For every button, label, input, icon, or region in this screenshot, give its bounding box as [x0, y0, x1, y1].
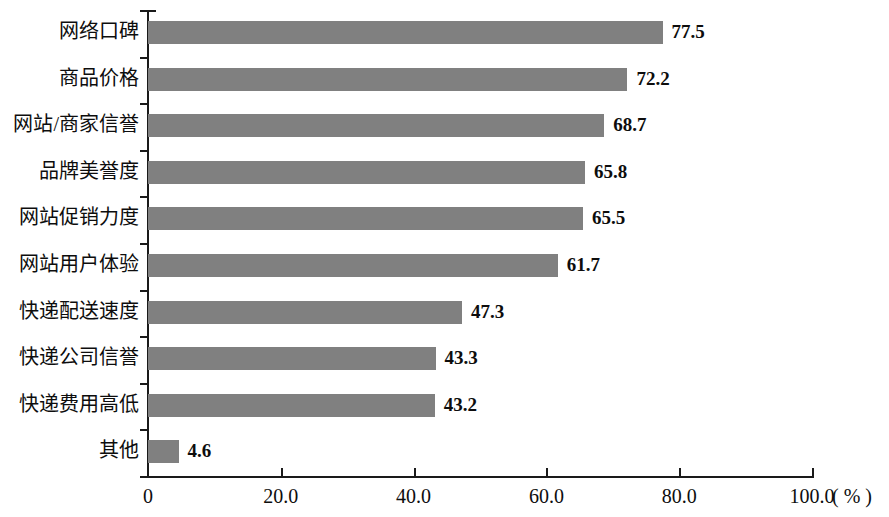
chart-row: 快递公司信誉43.3 [148, 336, 812, 383]
bar-value-label: 43.2 [444, 392, 477, 417]
category-label: 快递费用高低 [0, 391, 139, 417]
category-label: 快递公司信誉 [0, 344, 139, 370]
chart-row: 其他4.6 [148, 429, 812, 476]
bar [148, 347, 436, 370]
x-axis-tick [679, 468, 681, 477]
category-label: 商品价格 [0, 65, 139, 91]
chart-row: 网站/商家信誉68.7 [148, 103, 812, 150]
y-axis-tick [140, 196, 148, 198]
x-axis-tick-label: 0 [143, 484, 153, 508]
x-axis-unit-label: ( % ) [832, 484, 872, 508]
category-label: 网站促销力度 [0, 204, 139, 230]
category-label: 网站/商家信誉 [0, 111, 139, 137]
bar-value-label: 43.3 [445, 345, 478, 370]
bar-value-label: 72.2 [636, 66, 669, 91]
bar [148, 394, 435, 417]
category-label: 快递配送速度 [0, 298, 139, 324]
x-axis-line [147, 476, 814, 478]
bar [148, 161, 585, 184]
category-label: 网络口碑 [0, 18, 139, 44]
bar [148, 254, 558, 277]
bar [148, 114, 604, 137]
x-axis-tick-label: 20.0 [263, 484, 298, 508]
bar-chart: 网络口碑77.5商品价格72.2网站/商家信誉68.7品牌美誉度65.8网站促销… [0, 0, 889, 517]
y-axis-tick [140, 476, 148, 478]
y-axis-tick [140, 10, 148, 12]
bar-value-label: 61.7 [567, 252, 600, 277]
x-axis-tick-label: 80.0 [662, 484, 697, 508]
y-axis-tick [140, 290, 148, 292]
y-axis-tick [140, 336, 148, 338]
x-axis-tick [281, 468, 283, 477]
y-axis-tick [140, 57, 148, 59]
bar [148, 301, 462, 324]
y-axis-tick [140, 150, 148, 152]
bar-value-label: 77.5 [672, 19, 705, 44]
bar [148, 21, 663, 44]
chart-row: 商品价格72.2 [148, 57, 812, 104]
y-axis-tick [140, 243, 148, 245]
x-axis-tick-label: 100.0 [790, 484, 835, 508]
bar [148, 440, 179, 463]
chart-row: 网站促销力度65.5 [148, 196, 812, 243]
bar-value-label: 65.5 [592, 205, 625, 230]
chart-row: 网络口碑77.5 [148, 10, 812, 57]
y-axis-tick [140, 103, 148, 105]
bar [148, 68, 627, 91]
chart-row: 网站用户体验61.7 [148, 243, 812, 290]
x-axis-tick-label: 40.0 [396, 484, 431, 508]
bar-value-label: 65.8 [594, 159, 627, 184]
category-label: 网站用户体验 [0, 251, 139, 277]
chart-row: 快递配送速度47.3 [148, 290, 812, 337]
x-axis-tick-label: 60.0 [529, 484, 564, 508]
x-axis-tick [414, 468, 416, 477]
x-axis-tick [546, 468, 548, 477]
plot-area: 网络口碑77.5商品价格72.2网站/商家信誉68.7品牌美誉度65.8网站促销… [148, 10, 812, 476]
bar [148, 207, 583, 230]
chart-row: 品牌美誉度65.8 [148, 150, 812, 197]
bar-value-label: 68.7 [613, 112, 646, 137]
category-label: 其他 [0, 437, 139, 463]
category-label: 品牌美誉度 [0, 158, 139, 184]
chart-row: 快递费用高低43.2 [148, 383, 812, 430]
y-axis-tick [140, 383, 148, 385]
y-axis-tick [140, 429, 148, 431]
x-axis-right-cap [812, 468, 814, 478]
bar-value-label: 4.6 [188, 438, 212, 463]
bar-value-label: 47.3 [471, 299, 504, 324]
